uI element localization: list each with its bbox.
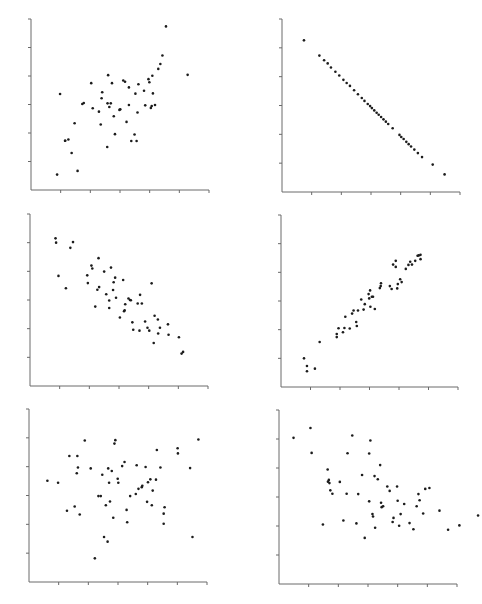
data-point [125,509,128,512]
data-point [418,499,421,502]
data-point [306,370,309,373]
data-point [121,465,124,468]
data-point [154,104,157,107]
data-point [391,127,394,130]
data-point [390,288,393,291]
data-point [148,81,151,84]
data-point [477,514,480,517]
data-point [144,320,147,323]
data-point [398,134,401,137]
data-point [411,263,414,266]
data-point [372,515,375,518]
data-point [306,365,309,368]
data-point [113,442,116,445]
data-point [70,152,73,155]
data-point [443,173,446,176]
data-point [372,295,375,298]
data-point [138,329,141,332]
data-point [334,70,337,73]
data-point [421,156,424,159]
data-point [99,123,102,126]
scatter-plot-svg [273,404,463,590]
data-point [135,140,138,143]
data-point [129,495,132,498]
data-point [97,257,100,260]
data-point [371,513,374,516]
data-point [389,285,392,288]
data-point [83,439,86,442]
data-point [407,143,410,146]
data-point [64,139,67,142]
scatter-plot-svg [24,208,214,392]
data-point [147,481,150,484]
data-point [107,467,110,470]
data-point [318,54,321,57]
data-point [363,100,366,103]
data-point [136,302,139,305]
data-point [422,512,425,515]
data-point [77,466,80,469]
data-point [91,267,94,270]
data-point [385,120,388,123]
data-point [112,115,115,118]
data-point [143,90,146,93]
data-point [392,263,395,266]
data-point [379,285,382,288]
data-point [110,470,113,473]
data-point [106,540,109,543]
data-point [178,336,181,339]
data-point [75,472,78,475]
data-point [382,505,385,508]
data-point [157,68,160,71]
data-point [69,247,72,250]
data-point [153,314,156,317]
data-point [447,528,450,531]
data-point [146,327,149,330]
data-point [119,316,122,319]
data-point [186,74,189,77]
data-point [367,293,370,296]
data-point [151,504,154,507]
data-point [360,298,363,301]
data-point [417,493,420,496]
data-point [114,133,117,136]
data-point [348,327,351,330]
data-point [303,357,306,360]
data-point [112,289,115,292]
data-point [373,109,376,112]
data-point [108,482,111,485]
data-point [396,499,399,502]
data-point [147,78,150,81]
data-point [90,82,93,85]
data-point [114,276,117,279]
data-point [137,488,140,491]
data-point [159,466,162,469]
data-point [106,146,109,149]
data-point [161,54,164,57]
data-point [76,455,79,458]
data-point [109,500,112,503]
scatter-plot-svg [25,13,215,196]
data-point [408,522,411,525]
data-point [369,289,372,292]
scatter-plot-svg [276,13,466,198]
data-point [112,516,115,519]
data-point [394,266,397,269]
data-point [116,477,119,480]
data-point [108,106,111,109]
data-point [374,526,377,529]
data-point [377,113,380,116]
scatter-panel-bottom-right [273,404,463,590]
data-point [357,309,360,312]
data-point [314,367,317,370]
data-point [419,258,422,261]
data-point [351,312,354,315]
data-point [57,482,60,485]
data-point [392,517,395,520]
data-point [380,116,383,119]
data-point [137,83,140,86]
data-point [379,464,382,467]
data-point [125,121,128,124]
data-point [103,536,106,539]
data-point [126,521,129,524]
